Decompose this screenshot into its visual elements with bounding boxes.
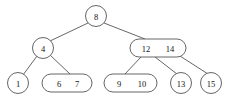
node-right-internal-key-1: 12: [142, 44, 151, 54]
node-right-internal-stadium: [130, 39, 186, 57]
edge-right-to-leaf-9-10: [125, 57, 141, 74]
edge-root-to-right: [104, 23, 145, 39]
node-leaf-1-key: 1: [16, 79, 20, 89]
node-leaf-13-key: 13: [177, 79, 186, 89]
edge-right-to-leaf-15: [180, 56, 208, 74]
node-right-internal: 12 14: [130, 39, 186, 57]
tree-diagram: 8 4 12 14 1 6 7 9 10 13: [0, 0, 226, 101]
edge-left-to-leaf-1: [23, 56, 37, 75]
node-root-key: 8: [94, 12, 98, 22]
node-left-internal: 4: [33, 38, 54, 59]
node-leaf-9-10-stadium: [104, 74, 157, 92]
node-right-internal-key-2: 14: [166, 44, 175, 54]
tree-canvas: 8 4 12 14 1 6 7 9 10 13: [0, 0, 226, 101]
node-root: 8: [86, 6, 107, 27]
node-leaf-15: 15: [201, 73, 222, 94]
node-leaf-9-10-key-1: 9: [117, 79, 121, 89]
node-leaf-9-10: 9 10: [104, 74, 157, 92]
node-leaf-9-10-key-2: 10: [138, 79, 147, 89]
edge-left-to-leaf-6-7: [50, 55, 70, 74]
node-leaf-6-7-key-2: 7: [75, 79, 79, 89]
node-leaf-6-7-stadium: [42, 74, 92, 92]
edge-right-to-leaf-13: [155, 57, 177, 74]
node-leaf-6-7: 6 7: [42, 74, 92, 92]
node-leaf-6-7-key-1: 6: [57, 79, 61, 89]
node-leaf-13: 13: [171, 73, 192, 94]
node-leaf-15-key: 15: [207, 79, 216, 89]
edge-root-to-left: [50, 23, 88, 41]
node-leaf-1: 1: [8, 73, 29, 94]
